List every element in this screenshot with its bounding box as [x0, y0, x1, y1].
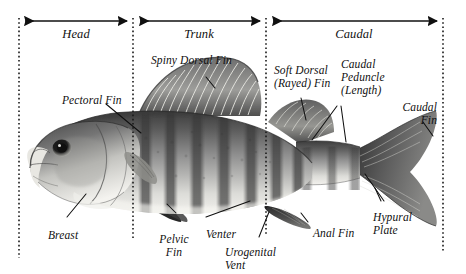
leader-spiny-dorsal	[206, 77, 215, 88]
leader-pectoral-fin	[106, 104, 141, 133]
label-venter: Venter	[206, 228, 236, 241]
figure-canvas: Head Trunk Caudal Spiny Dorsal Fin Soft …	[0, 0, 466, 274]
leader-pelvic-fin	[167, 204, 176, 213]
label-breast: Breast	[48, 229, 78, 242]
label-caudal-fin-line1: Caudal	[380, 101, 437, 114]
label-spiny-dorsal-fin: Spiny Dorsal Fin	[151, 54, 232, 67]
label-pelvic-fin-line1: Pelvic	[146, 233, 202, 246]
label-urogenital-vent-line2: Vent	[225, 259, 245, 272]
label-pectoral-fin: Pectoral Fin	[62, 94, 122, 107]
label-soft-dorsal-fin-line1: Soft Dorsal	[274, 64, 328, 77]
label-caudal-fin-line2: Fin	[380, 114, 437, 127]
leader-urogenital	[259, 212, 269, 237]
leader-hypural-2	[365, 174, 384, 201]
leader-venter	[206, 201, 250, 217]
region-label-trunk: Trunk	[164, 28, 234, 41]
label-hypural-plate-line2: Plate	[373, 224, 398, 237]
label-urogenital-vent-line1: Urogenital	[225, 246, 276, 259]
region-label-caudal: Caudal	[319, 28, 389, 41]
label-anal-fin: Anal Fin	[313, 227, 354, 240]
leader-peduncle-right	[341, 106, 346, 142]
leader-breast	[67, 194, 86, 217]
leader-peduncle-left	[312, 106, 337, 140]
label-hypural-plate-line1: Hypural	[373, 211, 412, 224]
leader-anal-fin	[301, 213, 308, 222]
label-caudal-peduncle-line3: (Length)	[341, 84, 381, 97]
leader-soft-dorsal	[301, 98, 306, 120]
region-label-head: Head	[41, 28, 111, 41]
label-soft-dorsal-fin-line2: (Rayed) Fin	[274, 77, 330, 90]
label-caudal-peduncle-line1: Caudal	[341, 58, 375, 71]
label-caudal-peduncle-line2: Peduncle	[341, 71, 385, 84]
label-pelvic-fin-line2: Fin	[146, 246, 202, 259]
